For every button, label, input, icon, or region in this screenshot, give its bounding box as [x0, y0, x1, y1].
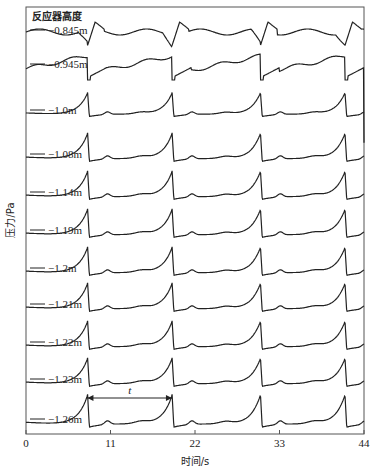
trace-label: −0.945m — [48, 58, 88, 70]
x-tick-label: 0 — [23, 437, 29, 449]
x-axis-title: 时间/s — [181, 455, 210, 467]
trace-label: −0.845m — [48, 24, 88, 36]
x-tick-label: 33 — [274, 437, 286, 449]
trace-label: −1.14m — [48, 186, 82, 198]
trace-label: −1.23m — [48, 373, 82, 385]
trace-label: −1.0m — [48, 104, 77, 116]
plot-frame — [26, 7, 364, 434]
trace-label: −1.22m — [48, 336, 82, 348]
pressure-time-chart: −0.845m−0.945m−1.0m−1.08m−1.14m−1.19m−1.… — [0, 0, 379, 474]
x-tick-label: 44 — [359, 437, 371, 449]
y-axis-title: 压力/Pa — [4, 202, 16, 237]
arrow-head-right — [166, 395, 172, 401]
pressure-trace — [26, 93, 364, 117]
legend-title: 反应器高度 — [32, 10, 83, 22]
x-tick-label: 11 — [105, 437, 116, 449]
pressure-trace — [26, 247, 364, 275]
period-label: t — [128, 384, 132, 396]
trace-label: −1.08m — [48, 148, 82, 160]
trace-label: −1.19m — [48, 224, 82, 236]
x-tick-label: 22 — [190, 437, 201, 449]
trace-label: −1.26m — [48, 413, 82, 425]
trace-label: −1.2m — [48, 262, 77, 274]
trace-label: −1.21m — [48, 298, 82, 310]
